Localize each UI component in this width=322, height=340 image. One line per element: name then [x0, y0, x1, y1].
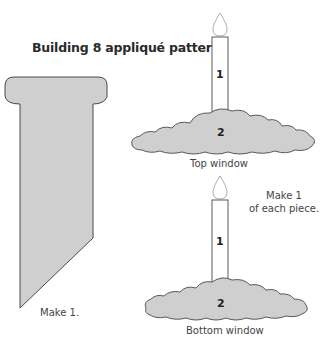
- left-piece-label: Make 1.: [40, 307, 79, 318]
- bottom-cloud-number: 2: [217, 297, 225, 310]
- top-window-caption: Top window: [190, 158, 248, 169]
- left-pattern-piece: [5, 77, 107, 308]
- bottom-window-caption: Bottom window: [186, 325, 264, 336]
- note-line-2: of each piece.: [244, 203, 322, 214]
- bottom-cloud: [145, 278, 307, 320]
- pattern-artwork: [0, 0, 322, 340]
- bottom-flame-icon: [213, 176, 227, 199]
- top-flame-icon: [213, 13, 227, 36]
- note-line-1: Make 1: [244, 190, 322, 201]
- bottom-candle-number: 1: [216, 235, 224, 248]
- top-candle-number: 1: [216, 68, 224, 81]
- top-cloud-number: 2: [217, 126, 225, 139]
